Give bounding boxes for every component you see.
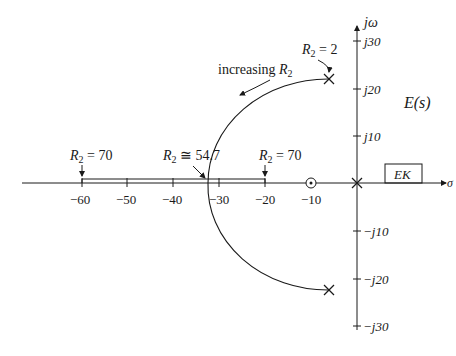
tick-j20: j20 <box>362 82 381 97</box>
tick-neg20: −20 <box>255 192 275 207</box>
r2-70-right-annotation: R2 = 70 <box>258 148 301 176</box>
root-locus-plot: σ jω −60 −50 −40 −30 −20 −10 j30 j20 j10… <box>0 0 456 356</box>
r2-70-left-annotation: R2 = 70 <box>69 148 112 176</box>
svg-text:R2 = 70: R2 = 70 <box>69 148 112 165</box>
root-locus-diagram: σ jω −60 −50 −40 −30 −20 −10 j30 j20 j10… <box>0 0 456 356</box>
tick-neg60: −60 <box>70 192 90 207</box>
tick-j10: j10 <box>362 129 381 144</box>
upper-locus-branch <box>208 79 329 183</box>
svg-text:R2 ≅ 54.7: R2 ≅ 54.7 <box>162 148 220 165</box>
tick-negj30: −j30 <box>363 319 389 334</box>
breakin-annotation: R2 ≅ 54.7 <box>162 148 220 178</box>
increasing-r2-annotation: increasing R2 <box>218 62 293 95</box>
imag-axis-label: jω <box>362 15 378 30</box>
tick-j30: j30 <box>362 34 381 49</box>
real-axis-label: σ <box>447 176 454 190</box>
r2-start-annotation: R2 = 2 <box>301 42 337 72</box>
tick-neg50: −50 <box>116 192 136 207</box>
ek-box-label: EK <box>393 167 412 182</box>
tick-neg40: −40 <box>162 192 182 207</box>
svg-text:R2 = 2: R2 = 2 <box>301 42 337 59</box>
zero-circle-icon <box>306 178 316 188</box>
tick-neg10: −10 <box>301 192 321 207</box>
tick-negj20: −j20 <box>363 272 389 287</box>
svg-text:increasing R2: increasing R2 <box>218 62 293 79</box>
transfer-function-label: E(s) <box>403 94 431 112</box>
svg-text:R2 = 70: R2 = 70 <box>258 148 301 165</box>
tick-neg30: −30 <box>209 192 229 207</box>
tick-negj10: −j10 <box>363 224 389 239</box>
